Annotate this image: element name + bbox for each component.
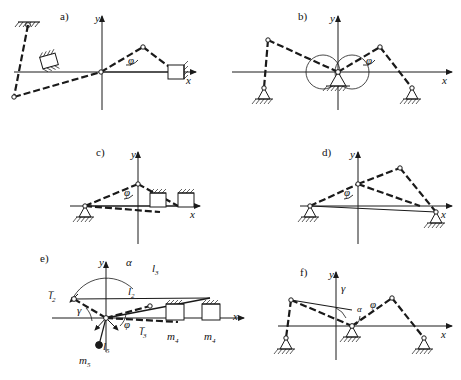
panel-c-axis-x: x [190,208,195,220]
panel-d-axis-y: y [350,148,355,160]
figure-canvas: a) y x φ b) y x φ c) y x φ d) y x φ e) y… [0,0,461,380]
panel-f-tag: f) [300,266,307,278]
panel-e-angle-gamma: γ [77,304,81,316]
panel-e-tag: e) [40,252,49,264]
panel-f-axis-y: y [329,268,334,280]
panel-b-graphics [232,16,452,110]
panel-e-mass-m4-left: m4 [167,330,178,345]
panel-b-axis-y: y [330,12,335,24]
panel-a-graphics [12,16,196,110]
panel-c-graphics [70,152,200,244]
panel-b-angle-phi: φ [366,54,372,66]
panel-e-angle-phi: φ [124,318,130,330]
panel-e-length-l2-bar: l̅2 [49,289,56,304]
panel-d-graphics [298,152,452,244]
panel-f-angle-phi: φ [370,298,376,310]
panel-a-axis-y: y [95,12,100,24]
panel-e-length-l5: l5 [103,340,110,355]
panel-f-angle-gamma: γ [341,282,345,294]
panel-e-length-l3-bar: l̅3 [140,325,147,340]
panel-e-mass-m5: m5 [79,354,90,369]
panel-d-angle-phi: φ [344,186,350,198]
panel-a-axis-x: x [186,74,191,86]
panel-a-angle-phi: φ [128,54,134,66]
panel-c-axis-y: y [131,148,136,160]
panel-f-graphics [274,272,452,360]
panel-e-length-l3: l3 [152,262,159,277]
panel-e-angle-alpha: α [126,256,132,268]
linkage-diagram-svg [0,0,461,380]
panel-c-tag: c) [96,146,105,158]
panel-e-length-l2: l2 [128,285,135,300]
panel-f-axis-x: x [441,328,446,340]
panel-e-mass-m4-right: m4 [204,330,215,345]
panel-a-tag: a) [60,10,69,22]
panel-e-axis-y: y [99,256,104,268]
panel-c-angle-phi: φ [124,186,130,198]
panel-e-axis-x: x [233,310,238,322]
panel-b-tag: b) [298,10,307,22]
panel-f-angle-alpha: α [357,304,362,314]
panel-d-axis-x: x [441,208,446,220]
panel-b-axis-x: x [442,74,447,86]
panel-d-tag: d) [322,146,331,158]
